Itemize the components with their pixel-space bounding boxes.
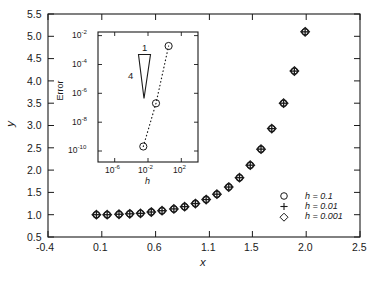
x-axis-title: x: [200, 257, 206, 269]
inset-y-tick-exponent: -10: [77, 143, 86, 150]
y-tick-label: 5.0: [27, 31, 42, 42]
main-x-ticks: [48, 231, 360, 237]
y-tick-label: 2.5: [27, 143, 42, 154]
y-tick-label: 4.0: [27, 76, 42, 87]
slope-rise-label: 4: [128, 71, 133, 81]
y-tick-label: 1.0: [27, 210, 42, 221]
x-tick-label: 2.5: [352, 242, 367, 253]
inset-y-tick-exponent: -2: [81, 28, 86, 35]
inset-x-tick-label: 102: [173, 166, 186, 175]
y-tick-label: 4.5: [27, 53, 42, 64]
y-tick-label: 5.5: [27, 9, 42, 20]
inset-axes-frame: [98, 32, 198, 162]
inset-y-tick-label: 10-10: [68, 146, 86, 155]
inset-y-tick-label: 10-2: [72, 31, 87, 40]
y-tick-label: 2.0: [27, 165, 42, 176]
slope-run-label: 1: [142, 43, 147, 53]
x-tick-label: 0.1: [93, 242, 108, 253]
inset-x-tick-label: 10-2: [138, 166, 153, 175]
y-tick-label: 3.0: [27, 120, 42, 131]
inset-y-tick-exponent: -6: [81, 86, 86, 93]
inset-y-axis-title: Error: [56, 81, 65, 101]
figure-canvas: [0, 0, 379, 281]
x-tick-label: 0.6: [147, 242, 162, 253]
y-tick-label: 1.5: [27, 187, 42, 198]
main-y-ticks: [48, 14, 54, 237]
inset-y-tick-exponent: -4: [81, 57, 86, 64]
inset-x-tick-exponent: -6: [114, 163, 119, 170]
inset-x-tick-label: 10-6: [105, 166, 120, 175]
x-tick-label: -0.4: [36, 242, 54, 253]
x-tick-label: 1.1: [201, 242, 216, 253]
x-tick-label: 1.5: [244, 242, 259, 253]
inset-x-tick-exponent: 2: [182, 163, 185, 170]
x-tick-label: 2.0: [298, 242, 313, 253]
legend-markers: [280, 193, 288, 222]
y-axis-title: y: [5, 121, 17, 127]
inset-x-axis-title: h: [145, 177, 150, 186]
inset-x-tick-exponent: -2: [147, 163, 152, 170]
inset-y-tick-label: 10-8: [72, 118, 87, 127]
inset-y-tick-exponent: -8: [81, 115, 86, 122]
y-tick-label: 3.5: [27, 98, 42, 109]
legend-label-h-0p01: h = 0.01: [305, 202, 338, 211]
main-x-ticks-top: [48, 14, 360, 20]
legend-label-h-0p001: h = 0.001: [305, 212, 343, 221]
legend-label-h-0p1: h = 0.1: [305, 192, 333, 201]
inset-y-tick-label: 10-6: [72, 89, 87, 98]
inset-y-tick-label: 10-4: [72, 60, 87, 69]
main-y-ticks-right: [354, 14, 360, 237]
